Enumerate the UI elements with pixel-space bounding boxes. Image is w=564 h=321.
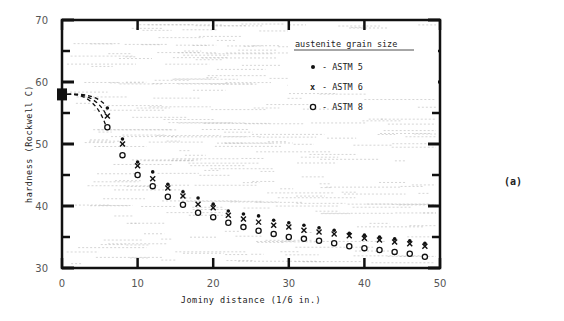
astm6-point [317, 230, 322, 235]
astm6-point [301, 228, 306, 233]
x-tick-labels: 01020304050 [59, 278, 447, 289]
astm6-point [332, 231, 337, 236]
astm6-point [105, 114, 110, 119]
astm5-point [302, 223, 306, 227]
dashed-connector-curves [67, 94, 105, 124]
astm8-point [392, 249, 397, 254]
astm5-point [332, 228, 336, 232]
astm8-point [286, 234, 291, 239]
start-point-square-marker [57, 88, 67, 100]
astm8-point [347, 244, 352, 249]
x-tick-label: 30 [282, 278, 295, 289]
x-axis-title: Jominy distance (1/6 in.) [181, 295, 321, 305]
astm5-point [287, 221, 291, 225]
astm6-point [271, 223, 276, 228]
astm5-point [196, 196, 200, 200]
astm5-point [106, 106, 110, 110]
y-tick-labels: 3040506070 [35, 15, 48, 274]
astm6-point [135, 163, 140, 168]
astm5-point [242, 212, 246, 216]
astm8-point [165, 194, 170, 199]
astm5-point [136, 160, 140, 164]
astm6-point [241, 217, 246, 222]
astm8-point [241, 224, 246, 229]
astm8-point [105, 125, 110, 130]
astm6-point [286, 225, 291, 230]
x-tick-label: 20 [207, 278, 220, 289]
y-tick-label: 40 [35, 201, 48, 212]
astm8-point [135, 172, 140, 177]
y-tick-label: 50 [35, 139, 48, 150]
legend-title: austenite grain size [295, 39, 397, 49]
x-tick-label: 0 [59, 278, 65, 289]
astm8-point [362, 246, 367, 251]
x-tick-label: 50 [434, 278, 447, 289]
astm5-point [227, 209, 231, 213]
jominy-hardness-chart: 3040506070 01020304050 Jominy distance (… [0, 0, 564, 321]
legend-label-astm6: - ASTM 6 [322, 82, 363, 92]
astm8-point [180, 202, 185, 207]
astm6-point [150, 176, 155, 181]
x-tick-label: 10 [131, 278, 144, 289]
astm5-point [272, 218, 276, 222]
astm5-point [166, 183, 170, 187]
y-tick-label: 30 [35, 263, 48, 274]
astm8-point [407, 251, 412, 256]
astm8-point [256, 228, 261, 233]
astm5-point [181, 190, 185, 194]
astm5-point [151, 170, 155, 174]
astm8-point [271, 231, 276, 236]
legend-dot-icon [311, 65, 315, 69]
legend: austenite grain size - ASTM 5 x - ASTM 6… [288, 30, 438, 112]
legend-label-astm5: - ASTM 5 [322, 62, 363, 72]
astm6-point [120, 142, 125, 147]
astm8-point [377, 247, 382, 252]
astm6-point [196, 202, 201, 207]
y-tick-label: 70 [35, 15, 48, 26]
astm6-point [256, 220, 261, 225]
astm5-point [121, 137, 125, 141]
legend-circle-icon [310, 104, 315, 109]
legend-x-icon: x [310, 82, 315, 92]
astm5-point [257, 214, 261, 218]
y-tick-label: 60 [35, 77, 48, 88]
astm8-point [226, 220, 231, 225]
astm8-point [120, 153, 125, 158]
astm8-point [332, 241, 337, 246]
x-tick-label: 40 [358, 278, 371, 289]
astm8-point [211, 215, 216, 220]
astm8-point [316, 238, 321, 243]
y-axis-title: hardness (Rockwell C) [24, 85, 34, 203]
astm8-point [301, 236, 306, 241]
astm5-point [211, 202, 215, 206]
astm6-point [226, 213, 231, 218]
data-points [105, 106, 428, 259]
astm8-point [422, 254, 427, 259]
panel-label: (a) [504, 176, 522, 187]
astm8-point [150, 184, 155, 189]
astm8-point [195, 210, 200, 215]
legend-label-astm8: - ASTM 8 [322, 102, 363, 112]
astm5-point [317, 226, 321, 230]
